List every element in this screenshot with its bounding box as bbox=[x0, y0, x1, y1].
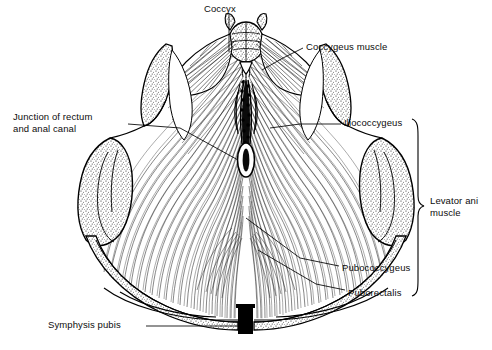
anal-canal-opening bbox=[238, 143, 255, 177]
label-iliococcygeus: Iliococcygeus bbox=[344, 117, 402, 129]
label-puborectalis: Puborectalis bbox=[348, 287, 401, 299]
label-symphysis-pubis: Symphysis pubis bbox=[48, 319, 121, 331]
label-coccyx: Coccyx bbox=[204, 3, 236, 15]
symphysis-pubis-block bbox=[236, 304, 255, 334]
label-pubococcygeus: Pubococcygeus bbox=[342, 262, 410, 274]
anatomy-illustration bbox=[0, 0, 492, 350]
label-junction-of-rectum-and-anal-canal: Junction of rectum and anal canal bbox=[13, 111, 92, 134]
label-coccygeus-muscle: Coccygeus muscle bbox=[306, 41, 387, 53]
label-levator-ani-muscle: Levator ani muscle bbox=[430, 195, 478, 218]
figure-canvas: Coccyx Coccygeus muscle Junction of rect… bbox=[0, 0, 492, 350]
